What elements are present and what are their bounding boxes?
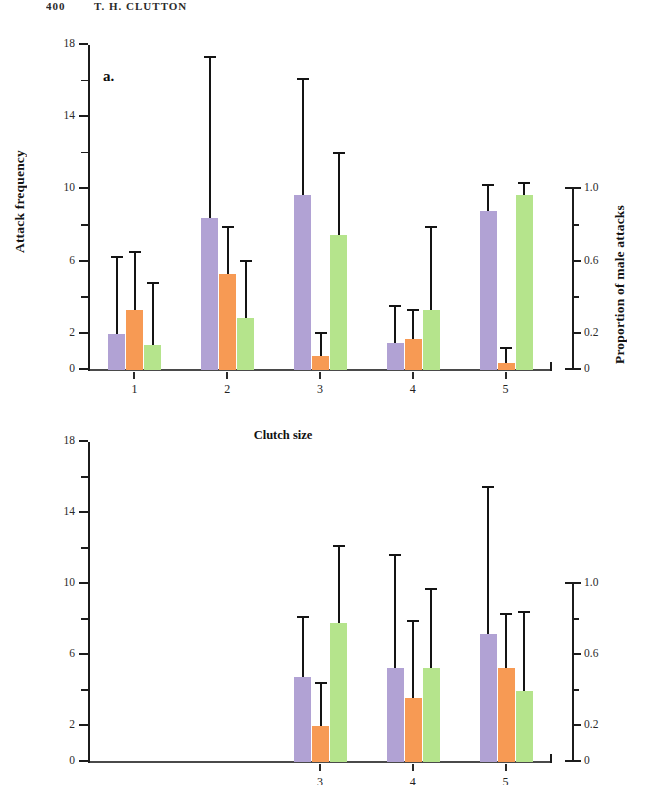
y-axis-tick-label: 10: [64, 181, 76, 193]
bar-orange: [405, 339, 422, 370]
y-axis-tick-label: 14: [64, 505, 76, 517]
error-bar: [412, 620, 414, 698]
error-bar: [338, 545, 340, 623]
error-bar: [394, 554, 396, 668]
y-axis-tick-label: 0: [69, 362, 75, 374]
bar-orange: [126, 310, 143, 370]
bar-group: [294, 442, 347, 762]
bar-slot: [108, 45, 125, 370]
right-axis-tick-label: 1.0: [584, 181, 598, 193]
right-axis-tick-label: 1.0: [584, 576, 598, 588]
bar-green: [423, 668, 440, 762]
right-axis-tick-minor: [572, 296, 579, 298]
right-axis-tick-major: 0.6: [572, 653, 581, 655]
x-axis-tick: [319, 764, 321, 771]
panel-b-plot-area: 02610141800.20.61.0345: [88, 442, 552, 762]
bar-slot: [498, 442, 515, 762]
y-axis-tick-major: 6: [79, 260, 88, 262]
bar-green: [330, 235, 347, 370]
y-axis-tick-minor: [81, 618, 88, 620]
x-axis-tick-label: 4: [410, 382, 416, 397]
y-axis-tick-minor: [81, 296, 88, 298]
error-bar: [412, 309, 414, 340]
x-axis-tick-label: 5: [503, 775, 509, 785]
bar-orange: [498, 363, 515, 370]
bar-group: [294, 45, 347, 370]
bar-orange: [405, 698, 422, 762]
right-axis-line: 00.20.61.0: [572, 189, 574, 370]
bar-group-bars: [387, 442, 440, 762]
right-axis-tick-label: 0.2: [584, 718, 598, 730]
y-axis-tick-minor: [81, 224, 88, 226]
y-axis-tick-major: 2: [79, 332, 88, 334]
right-axis-top-cap: [565, 582, 574, 584]
y-axis-tick-major: 10: [79, 582, 88, 584]
bar-group-bars: [294, 442, 347, 762]
error-bar: [320, 332, 322, 355]
error-bar: [338, 152, 340, 235]
right-axis-tick-label: 0: [584, 754, 590, 766]
bar-purple: [387, 343, 404, 370]
bar-slot: [201, 45, 218, 370]
bar-purple: [294, 677, 311, 762]
y-axis-tick-minor: [81, 80, 88, 82]
y-axis-tick-major: 18: [79, 43, 88, 45]
right-axis-tick-minor: [572, 224, 579, 226]
bar-slot: [330, 442, 347, 762]
panel-a-plot-area: 02610141800.20.61.012345: [88, 45, 552, 370]
bar-group: [387, 442, 440, 762]
x-axis-tick-label: 4: [410, 775, 416, 785]
bar-purple: [201, 218, 218, 370]
error-bar: [227, 226, 229, 275]
bar-slot: [312, 442, 329, 762]
y-axis-tick-label: 18: [64, 37, 76, 49]
bar-group: [108, 45, 161, 370]
y-axis-tick-major: 6: [79, 653, 88, 655]
bar-slot: [387, 45, 404, 370]
bar-slot: [516, 45, 533, 370]
bar-slot: [330, 45, 347, 370]
error-bar: [505, 347, 507, 363]
bar-slot: [480, 45, 497, 370]
x-axis-tick: [226, 372, 228, 379]
error-bar: [505, 613, 507, 668]
bar-group-bars: [201, 45, 254, 370]
error-bar: [523, 182, 525, 195]
right-axis-bottom-cap: [565, 760, 574, 762]
bar-slot: [387, 442, 404, 762]
bar-purple: [294, 195, 311, 370]
error-bar: [302, 616, 304, 676]
bar-slot: [126, 45, 143, 370]
x-axis-tick: [133, 372, 135, 379]
bar-slot: [312, 45, 329, 370]
right-axis-tick-major: 0.2: [572, 724, 581, 726]
error-bar: [116, 256, 118, 334]
x-axis-tick: [505, 764, 507, 771]
bar-green: [330, 623, 347, 762]
x-axis-tick-label: 2: [224, 382, 230, 397]
error-bar: [209, 56, 211, 219]
error-bar: [320, 682, 322, 726]
bar-slot: [144, 45, 161, 370]
x-axis-tick-label: 3: [317, 775, 323, 785]
bar-green: [516, 691, 533, 762]
bar-slot: [237, 45, 254, 370]
y-axis-tick-major: 18: [79, 440, 88, 442]
x-axis-tick: [412, 372, 414, 379]
x-axis-tick-label: 5: [503, 382, 509, 397]
error-bar: [134, 251, 136, 311]
bar-group-bars: [387, 45, 440, 370]
right-axis-tick-minor: [572, 618, 579, 620]
running-title: T. H. CLUTTON: [94, 0, 187, 11]
y-axis-tick-label: 2: [69, 326, 75, 338]
error-bar: [430, 588, 432, 668]
right-axis-tick-label: 0: [584, 362, 590, 374]
right-axis-tick-label: 0.2: [584, 326, 598, 338]
bar-orange: [498, 668, 515, 762]
right-axis-tick-major: 0.2: [572, 332, 581, 334]
bar-slot: [294, 45, 311, 370]
bar-green: [237, 318, 254, 370]
y-axis-tick-major: 10: [79, 187, 88, 189]
bar-orange: [312, 356, 329, 370]
bar-purple: [108, 334, 125, 370]
